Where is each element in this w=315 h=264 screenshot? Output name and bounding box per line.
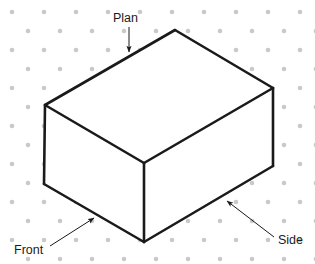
grid-dot (266, 10, 271, 15)
grid-dot (138, 10, 143, 15)
grid-dot (266, 48, 271, 53)
grid-dot (282, 143, 287, 148)
grid-dot (282, 29, 287, 34)
grid-dot (250, 181, 255, 186)
grid-dot (218, 29, 223, 34)
grid-dot (26, 105, 31, 110)
grid-dot (186, 219, 191, 224)
grid-dot (26, 143, 31, 148)
grid-dot (266, 200, 271, 205)
grid-dot (218, 257, 223, 262)
grid-dot (26, 181, 31, 186)
grid-dot (170, 238, 175, 243)
grid-dot (154, 29, 159, 34)
grid-dot (186, 257, 191, 262)
grid-dot (122, 29, 127, 34)
grid-dot (58, 257, 63, 262)
grid-dot (90, 257, 95, 262)
grid-dot (26, 67, 31, 72)
grid-dot (10, 200, 15, 205)
grid-dot (42, 86, 47, 91)
grid-dot (266, 238, 271, 243)
grid-dot (106, 10, 111, 15)
grid-dot (202, 238, 207, 243)
grid-dot (10, 124, 15, 129)
grid-dot (74, 10, 79, 15)
grid-dot (106, 238, 111, 243)
grid-dot (218, 219, 223, 224)
grid-dot (90, 29, 95, 34)
grid-dot (10, 86, 15, 91)
grid-dot (298, 86, 303, 91)
grid-dot (10, 162, 15, 167)
grid-dot (106, 48, 111, 53)
label-side: Side (278, 233, 303, 247)
grid-dot (282, 67, 287, 72)
grid-dot (186, 29, 191, 34)
grid-dot (234, 238, 239, 243)
grid-dot (10, 238, 15, 243)
grid-dot (202, 10, 207, 15)
grid-dot (122, 257, 127, 262)
grid-dot (250, 29, 255, 34)
grid-dot (58, 219, 63, 224)
grid-dot (282, 257, 287, 262)
grid-dot (42, 238, 47, 243)
grid-dot (234, 200, 239, 205)
grid-dot (90, 67, 95, 72)
left-vertical-edge (44, 105, 45, 184)
grid-dot (26, 257, 31, 262)
grid-dot (250, 257, 255, 262)
grid-dot (298, 10, 303, 15)
grid-dot (74, 48, 79, 53)
label-plan: Plan (113, 11, 138, 25)
grid-dot (282, 105, 287, 110)
grid-dot (170, 10, 175, 15)
grid-dot (234, 48, 239, 53)
grid-dot (10, 10, 15, 15)
grid-dot (26, 29, 31, 34)
grid-dot (154, 257, 159, 262)
grid-dot (58, 67, 63, 72)
grid-dot (74, 238, 79, 243)
grid-dot (42, 10, 47, 15)
label-front: Front (14, 243, 44, 257)
grid-dot (298, 48, 303, 53)
grid-dot (250, 67, 255, 72)
diagram-canvas: PlanFrontSide (0, 0, 315, 264)
grid-dot (26, 219, 31, 224)
grid-dot (234, 10, 239, 15)
grid-dot (298, 124, 303, 129)
isometric-cuboid-diagram: PlanFrontSide (0, 0, 315, 264)
grid-dot (58, 29, 63, 34)
grid-dot (42, 48, 47, 53)
grid-dot (282, 181, 287, 186)
grid-dot (298, 200, 303, 205)
grid-dot (42, 200, 47, 205)
grid-dot (10, 48, 15, 53)
grid-dot (282, 219, 287, 224)
grid-dot (298, 162, 303, 167)
